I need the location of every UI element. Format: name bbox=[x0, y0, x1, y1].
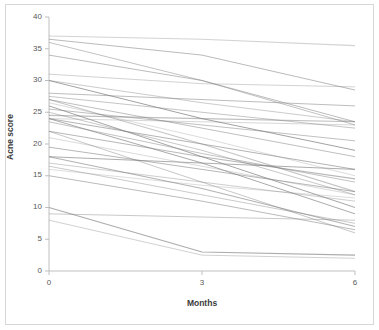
x-tick-0: 0 bbox=[39, 279, 59, 287]
series-line bbox=[49, 176, 355, 230]
y-tick-5: 5 bbox=[20, 235, 42, 243]
series-line bbox=[49, 109, 355, 141]
series-group bbox=[49, 36, 355, 258]
y-tick-15: 15 bbox=[20, 171, 42, 179]
series-line bbox=[49, 100, 355, 157]
series-line bbox=[49, 163, 355, 201]
series-line bbox=[49, 157, 355, 170]
y-tick-25: 25 bbox=[20, 108, 42, 116]
y-tick-0: 0 bbox=[20, 267, 42, 275]
series-line bbox=[49, 122, 355, 182]
x-tick-6: 6 bbox=[345, 279, 365, 287]
x-tick-3: 3 bbox=[192, 279, 212, 287]
series-line bbox=[49, 81, 355, 151]
x-axis-title: Months bbox=[48, 298, 356, 308]
series-line bbox=[49, 119, 355, 170]
series-line bbox=[49, 220, 355, 258]
chart-figure: Acne score Months 40 35 30 25 20 15 10 5… bbox=[0, 0, 379, 330]
y-axis-title: Acne score bbox=[5, 105, 15, 169]
series-line bbox=[49, 93, 355, 106]
y-tick-20: 20 bbox=[20, 140, 42, 148]
series-line bbox=[49, 131, 355, 179]
y-tick-35: 35 bbox=[20, 45, 42, 53]
y-tick-10: 10 bbox=[20, 203, 42, 211]
series-line bbox=[49, 39, 355, 90]
y-tick-40: 40 bbox=[20, 13, 42, 21]
y-tick-30: 30 bbox=[20, 76, 42, 84]
